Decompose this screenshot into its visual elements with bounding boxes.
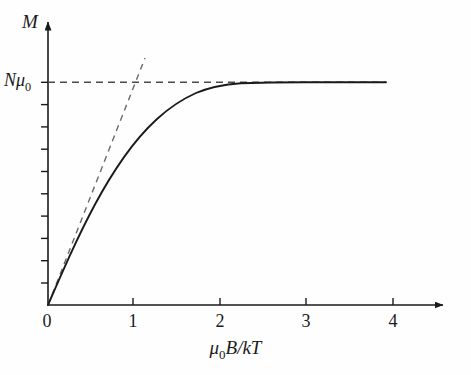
x-axis-ticks xyxy=(133,298,393,305)
y-axis-ticks xyxy=(41,82,48,283)
saturation-label-subscript: 0 xyxy=(25,80,31,94)
x-axis-title-rest: B/kT xyxy=(226,337,262,358)
x-tick-label-0: 0 xyxy=(35,312,59,330)
initial-slope-tangent-line xyxy=(48,58,145,305)
saturation-label-mu: μ xyxy=(16,70,25,90)
x-tick-label-4: 4 xyxy=(381,312,405,330)
figure-canvas: M Nμ0 0 1 2 3 4 μ0B/kT xyxy=(0,0,471,375)
magnetization-curve-path xyxy=(48,82,386,305)
saturation-level-label: Nμ0 xyxy=(4,71,31,93)
x-tick-label-1: 1 xyxy=(121,312,145,330)
saturation-label-N: N xyxy=(4,70,16,90)
x-tick-label-2: 2 xyxy=(208,312,232,330)
y-axis-title: M xyxy=(22,12,38,31)
x-tick-label-3: 3 xyxy=(294,312,318,330)
x-axis-title: μ0B/kT xyxy=(0,338,471,362)
x-axis-title-mu: μ xyxy=(210,337,220,358)
